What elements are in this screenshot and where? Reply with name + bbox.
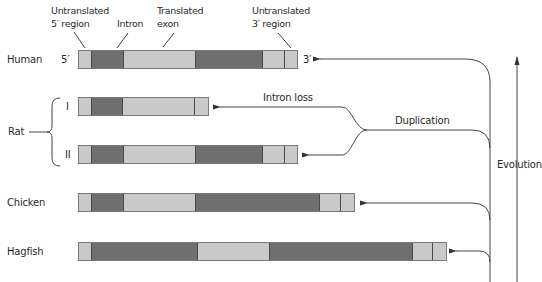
leader-exon — [163, 33, 174, 47]
connector-lines — [0, 0, 542, 282]
leader-utr3 — [278, 33, 291, 48]
branch-hagfish — [456, 251, 490, 262]
branch-rat-ii — [309, 130, 367, 155]
branch-chicken — [367, 203, 490, 220]
rat-brace — [47, 98, 60, 166]
branch-intron-loss — [220, 107, 367, 130]
branch-human — [320, 59, 490, 282]
leader-utr5 — [74, 32, 85, 48]
branch-duplication — [367, 130, 490, 148]
leader-intron — [117, 33, 128, 48]
